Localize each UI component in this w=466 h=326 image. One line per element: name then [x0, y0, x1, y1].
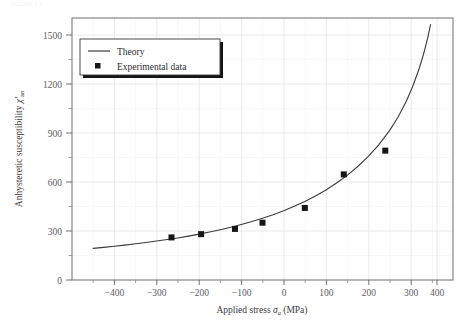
x-tick-label: 0	[282, 288, 287, 298]
y-tick-label: 900	[48, 129, 63, 139]
anhysteretic-susceptibility-chart: 0 300 600 900 1200 1500 −400 −300 −200 −…	[0, 0, 466, 326]
y-axis-title-text: Anhysteretic susceptibility	[14, 103, 24, 207]
legend-label-experimental: Experimental data	[117, 62, 187, 72]
x-tick-label: 100	[319, 288, 334, 298]
x-tick-label: −100	[232, 288, 252, 298]
y-tick-label: 1200	[43, 80, 62, 90]
data-point-marker	[198, 231, 204, 237]
data-point-marker	[382, 148, 388, 154]
y-axis-title-subscript: an	[18, 90, 25, 97]
y-tick-label: 0	[57, 276, 62, 286]
legend-square-icon	[95, 63, 101, 69]
y-axis-tick-labels: 0 300 600 900 1200 1500	[43, 31, 62, 286]
legend-label-theory: Theory	[117, 47, 145, 57]
data-point-marker	[232, 226, 238, 232]
figure-container: FIGURE 1.1	[0, 0, 466, 326]
x-axis-tick-labels: −400 −300 −200 −100 0 100 200 300 400	[105, 288, 445, 298]
x-tick-label: 400	[430, 288, 445, 298]
y-tick-label: 1500	[43, 31, 62, 41]
x-tick-label: 200	[362, 288, 377, 298]
x-tick-label: 300	[404, 288, 419, 298]
x-tick-label: −200	[189, 288, 209, 298]
y-tick-label: 300	[48, 227, 63, 237]
legend: Theory Experimental data	[80, 39, 223, 78]
x-axis-title: Applied stress σa (MPa)	[216, 305, 307, 316]
data-point-marker	[260, 220, 266, 226]
data-point-marker	[341, 171, 347, 177]
data-point-marker	[168, 234, 174, 240]
x-axis-major-ticks	[114, 280, 437, 285]
y-axis-minor-ticks	[69, 60, 73, 256]
y-tick-label: 600	[48, 178, 63, 188]
data-point-marker	[302, 205, 308, 211]
y-axis-title: Anhysteretic susceptibility χ′an	[14, 90, 25, 207]
figure-caption: FIGURE 1.1	[10, 1, 43, 7]
x-tick-label: −300	[147, 288, 167, 298]
x-axis-title-units: (MPa)	[281, 305, 308, 316]
x-axis-title-text: Applied stress	[216, 305, 272, 315]
x-tick-label: −400	[105, 288, 125, 298]
